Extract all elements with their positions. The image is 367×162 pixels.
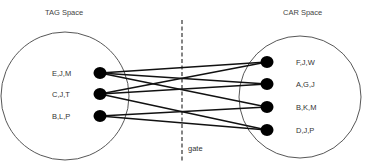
car-space-title: CAR Space [283, 8, 322, 17]
car-node-agj [261, 78, 274, 90]
gate-label: gate [188, 144, 203, 153]
tag-node-cjt [94, 88, 107, 100]
car-node-fjw [261, 56, 274, 68]
tag-node-label: C,J,T [52, 90, 70, 99]
tag-node-label: E,J,M [52, 69, 71, 78]
tag-node-label: B,L,P [52, 112, 70, 121]
car-node-bkm [261, 101, 274, 113]
tag-space-title: TAG Space [45, 8, 83, 17]
tag-car-mapping-diagram: TAG SpaceCAR Space gate E,J,MC,J,TB,L,PF… [0, 0, 367, 162]
car-node-label: F,J,W [296, 58, 316, 67]
car-space-circle [239, 36, 361, 158]
edge-blp-djp [100, 116, 267, 130]
car-node-label: D,J,P [296, 126, 314, 135]
tag-node-ejm [94, 67, 107, 79]
car-node-label: A,G,J [296, 80, 315, 89]
car-node-label: B,K,M [296, 103, 316, 112]
tag-node-blp [94, 110, 107, 122]
car-node-djp [261, 124, 274, 136]
edges [100, 62, 267, 130]
